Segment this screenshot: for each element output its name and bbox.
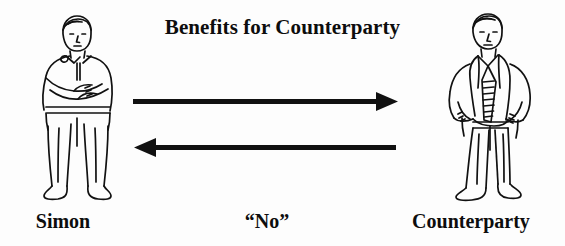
benefits-arrow-label: Benefits for Counterparty bbox=[0, 14, 565, 40]
diagram-canvas: Benefits for Counterparty Simon “No” Cou… bbox=[0, 0, 565, 246]
benefits-arrow bbox=[133, 92, 398, 111]
figure-label-simon: Simon bbox=[8, 208, 118, 234]
no-arrow bbox=[134, 138, 396, 157]
figure-label-counterparty: Counterparty bbox=[400, 208, 542, 234]
no-arrow-label: “No” bbox=[197, 208, 337, 234]
